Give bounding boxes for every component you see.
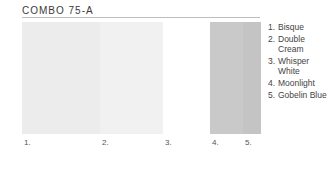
legend-label: Whisper White: [278, 56, 330, 76]
legend-number: 4.: [268, 78, 278, 88]
legend-item: 1.Bisque: [268, 22, 330, 32]
legend-item: 5.Gobelin Blue: [268, 90, 330, 100]
combo-title: COMBO 75-A: [22, 5, 94, 16]
legend-number: 5.: [268, 90, 278, 100]
legend-label: Moonlight: [278, 78, 330, 88]
legend-label: Double Cream: [278, 34, 330, 54]
swatch-number-2: 2.: [102, 138, 109, 147]
legend-label: Gobelin Blue: [278, 90, 330, 100]
legend-item: 3.Whisper White: [268, 56, 330, 76]
swatch-double-cream: [100, 22, 163, 134]
swatch-gobelin-blue: [243, 22, 261, 134]
legend-number: 1.: [268, 22, 278, 32]
swatch-number-5: 5.: [245, 138, 252, 147]
swatch-number-4: 4.: [212, 138, 219, 147]
swatch-moonlight: [210, 22, 243, 134]
swatch-number-3: 3.: [165, 138, 172, 147]
legend-item: 4.Moonlight: [268, 78, 330, 88]
title-underline: [22, 17, 260, 18]
legend-item: 2.Double Cream: [268, 34, 330, 54]
legend-label: Bisque: [278, 22, 330, 32]
legend-number: 2.: [268, 34, 278, 54]
legend-number: 3.: [268, 56, 278, 76]
swatch-whisper-white: [163, 22, 210, 134]
color-legend: 1.Bisque 2.Double Cream 3.Whisper White …: [268, 22, 330, 102]
color-swatch-strip: [22, 22, 261, 134]
swatch-bisque: [22, 22, 100, 134]
swatch-number-1: 1.: [24, 138, 31, 147]
